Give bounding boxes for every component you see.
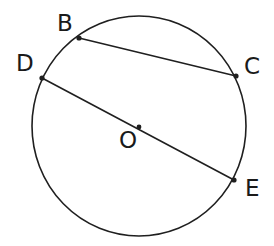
point-e-marker — [231, 177, 236, 182]
point-label-b: B — [57, 12, 73, 35]
geometry-figure: B C D E O — [0, 0, 274, 246]
point-label-e: E — [245, 177, 260, 200]
point-c-marker — [233, 73, 238, 78]
point-b-marker — [76, 35, 81, 40]
chord-bc — [79, 38, 236, 76]
point-d-marker — [39, 75, 44, 80]
point-label-d: D — [16, 52, 34, 75]
geometry-canvas — [0, 0, 274, 246]
point-label-c: C — [244, 55, 260, 78]
center-point-marker — [137, 125, 142, 130]
center-label-o: O — [119, 129, 137, 152]
